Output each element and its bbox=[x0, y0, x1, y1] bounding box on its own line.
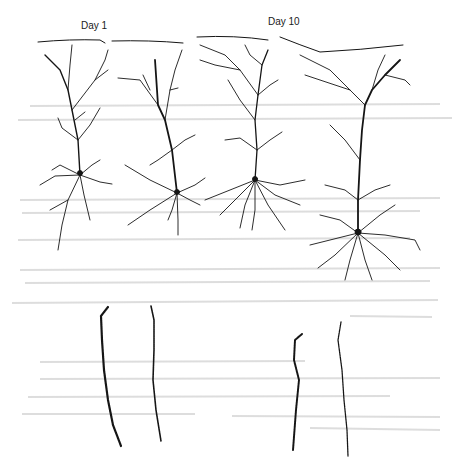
dendrite-day1-a bbox=[101, 307, 121, 446]
day1-label: Day 1 bbox=[81, 20, 107, 31]
neuron-day10-b bbox=[300, 55, 420, 280]
neuron-day1-a bbox=[40, 45, 112, 250]
pia-lines bbox=[38, 36, 403, 52]
dendrite-segments bbox=[101, 306, 348, 456]
neuron-day10-a bbox=[200, 45, 305, 230]
dendrite-day10-b bbox=[338, 322, 348, 456]
dendrite-day1-b bbox=[151, 306, 161, 441]
bleed-through-lines bbox=[12, 104, 452, 430]
day10-label: Day 10 bbox=[268, 16, 300, 27]
figure-canvas bbox=[0, 0, 459, 467]
dendrite-day10-a bbox=[293, 334, 302, 450]
neuron-day1-b bbox=[118, 50, 205, 235]
